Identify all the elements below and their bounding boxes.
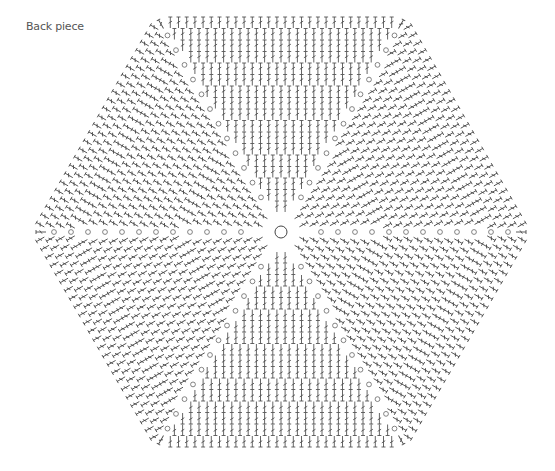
stitch (398, 213, 408, 221)
stitch (126, 375, 136, 383)
stitch (117, 169, 127, 177)
stitch (180, 377, 190, 385)
stitch (153, 162, 163, 170)
stitch (353, 367, 357, 378)
chain-stitch (233, 308, 238, 313)
stitch (407, 353, 417, 361)
stitch (283, 17, 287, 28)
stitch (138, 170, 148, 178)
stitch (202, 254, 212, 262)
stitch (107, 342, 117, 350)
stitch (153, 179, 163, 187)
stitch (279, 29, 283, 40)
stitch (396, 319, 406, 327)
stitch (59, 180, 69, 188)
stitch (300, 178, 304, 189)
stitch (230, 402, 234, 413)
stitch (479, 301, 489, 309)
stitch (259, 63, 263, 74)
stitch (168, 436, 172, 447)
stitch (331, 287, 341, 295)
stitch (283, 310, 287, 321)
stitch (367, 352, 377, 360)
stitch (349, 390, 353, 401)
stitch (329, 220, 339, 228)
stitch (382, 361, 392, 369)
stitch (386, 121, 396, 129)
stitch (369, 163, 379, 171)
stitch (316, 333, 320, 344)
stitch (127, 358, 137, 366)
stitch (424, 186, 434, 194)
stitch (113, 279, 123, 287)
stitch (386, 29, 390, 40)
stitch (263, 402, 267, 413)
chain-stitch (174, 411, 179, 416)
stitch (222, 52, 226, 63)
stitch (324, 132, 328, 143)
stitch (450, 177, 460, 185)
stitch (59, 276, 69, 284)
stitch (107, 97, 117, 105)
stitch (345, 52, 349, 63)
stitch (234, 17, 238, 28)
stitch (426, 375, 436, 383)
stitch (140, 236, 150, 244)
stitch (421, 73, 431, 81)
stitch (450, 334, 460, 342)
stitch (340, 185, 350, 193)
stitch (259, 212, 269, 220)
stitch (103, 139, 113, 147)
stitch (213, 402, 217, 413)
stitch (330, 203, 340, 211)
stitch (197, 40, 201, 51)
stitch (377, 369, 387, 377)
stitch (65, 251, 75, 259)
stitch (267, 436, 271, 447)
stitch (254, 425, 258, 436)
stitch (202, 271, 212, 279)
stitch (83, 246, 93, 254)
stitch (373, 17, 377, 28)
stitch (349, 219, 359, 227)
stitch (167, 302, 177, 310)
stitch (137, 303, 147, 311)
stitch (314, 212, 324, 220)
stitch (181, 343, 191, 351)
stitch (250, 75, 254, 86)
stitch (283, 390, 287, 401)
stitch (55, 268, 65, 276)
stitch (55, 188, 65, 196)
stitch (370, 238, 380, 246)
chain-stitch (506, 230, 511, 235)
stitch (458, 156, 468, 164)
stitch (209, 75, 213, 86)
stitch (263, 52, 267, 63)
stitch (213, 29, 217, 40)
stitch (295, 98, 299, 109)
stitch (271, 29, 275, 40)
stitch (497, 251, 507, 259)
stitch (66, 222, 76, 230)
stitch (203, 237, 213, 245)
stitch (483, 293, 493, 301)
stitch (178, 155, 188, 163)
stitch (416, 320, 426, 328)
stitch (271, 413, 275, 424)
stitch (216, 160, 226, 168)
chain-stitch (307, 180, 312, 185)
stitch (418, 212, 428, 220)
stitch (107, 114, 117, 122)
stitch (445, 97, 455, 105)
stitch (146, 137, 156, 145)
stitch (139, 204, 149, 212)
stitch (69, 276, 79, 284)
stitch (507, 252, 517, 260)
stitch (246, 155, 250, 166)
stitch (304, 212, 314, 220)
stitch (360, 326, 370, 334)
stitch (361, 413, 365, 424)
stitch (218, 17, 222, 28)
stitch (136, 119, 146, 127)
stitch (259, 132, 263, 143)
